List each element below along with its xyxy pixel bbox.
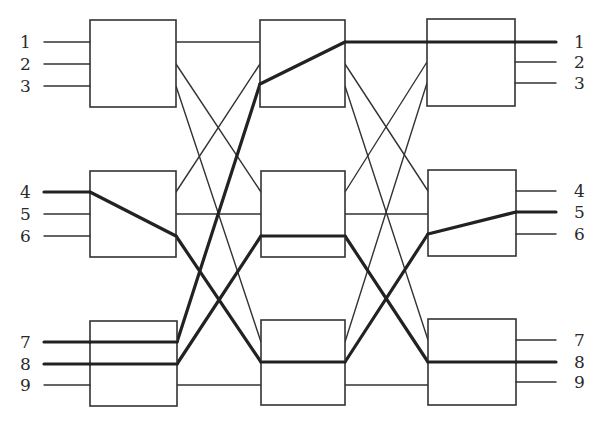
- output-label-4: 4: [574, 181, 585, 201]
- output-label-1: 1: [574, 32, 585, 52]
- input-label-1: 1: [20, 32, 31, 52]
- output-label-7: 7: [574, 330, 585, 350]
- input-label-2: 2: [20, 54, 31, 74]
- input-label-8: 8: [20, 354, 31, 374]
- output-label-8: 8: [574, 352, 585, 372]
- input-label-6: 6: [20, 226, 31, 246]
- switch-box-m2: [261, 171, 345, 257]
- clos-network-diagram: 123456789123456789: [0, 0, 603, 427]
- link-M2-1-to-R1-2: [345, 62, 427, 192]
- input-label-7: 7: [20, 332, 31, 352]
- input-label-3: 3: [20, 76, 31, 96]
- input-label-9: 9: [20, 375, 31, 395]
- output-label-3: 3: [574, 73, 585, 93]
- switch-boxes: [90, 19, 516, 406]
- switch-box-l1: [90, 20, 176, 107]
- input-label-4: 4: [20, 182, 31, 202]
- output-label-9: 9: [574, 372, 585, 392]
- output-label-5: 5: [574, 202, 585, 222]
- output-label-2: 2: [574, 52, 585, 72]
- switch-box-r1: [427, 19, 515, 106]
- switch-box-r2: [428, 170, 516, 256]
- input-label-5: 5: [20, 204, 31, 224]
- output-label-6: 6: [574, 224, 585, 244]
